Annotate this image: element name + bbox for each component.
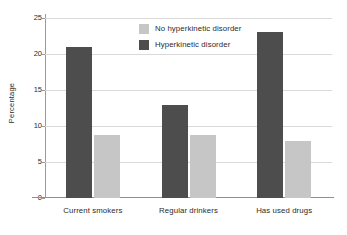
- gridline: [45, 18, 332, 19]
- bar: [94, 135, 120, 198]
- y-axis-tick-label: 25: [22, 14, 42, 22]
- legend-label: No hyperkinetic disorder: [155, 24, 241, 33]
- legend-label: Hyperkinetic disorder: [155, 40, 230, 49]
- bar: [190, 135, 216, 198]
- y-axis-tick-label: 15: [22, 86, 42, 94]
- y-axis-tick-mark: [41, 198, 45, 199]
- y-axis-tick-mark: [41, 90, 45, 91]
- y-axis-tick-label: 10: [22, 122, 42, 130]
- y-axis-tick-label: 5: [22, 158, 42, 166]
- y-axis-tick-labels: 0510152025: [20, 0, 42, 235]
- y-axis-line: [45, 14, 46, 198]
- y-axis-tick-label: 20: [22, 50, 42, 58]
- legend-item: Hyperkinetic disorder: [139, 38, 241, 51]
- y-axis-title: Percentage: [5, 8, 19, 198]
- legend-swatch-icon: [139, 40, 149, 50]
- bar: [162, 105, 188, 198]
- legend-swatch-icon: [139, 24, 149, 34]
- bar: [66, 47, 92, 198]
- y-axis-tick-mark: [41, 18, 45, 19]
- y-axis-tick-mark: [41, 54, 45, 55]
- y-axis-tick-mark: [41, 162, 45, 163]
- y-axis-tick-mark: [41, 126, 45, 127]
- chart-legend: No hyperkinetic disorderHyperkinetic dis…: [139, 22, 241, 54]
- bar-chart: Percentage 0510152025 Current smokersReg…: [0, 0, 347, 235]
- legend-item: No hyperkinetic disorder: [139, 22, 241, 35]
- bar: [257, 32, 283, 198]
- y-axis-tick-label: 0: [22, 194, 42, 202]
- bar: [285, 141, 311, 198]
- x-axis-tick-label: Has used drugs: [224, 206, 344, 215]
